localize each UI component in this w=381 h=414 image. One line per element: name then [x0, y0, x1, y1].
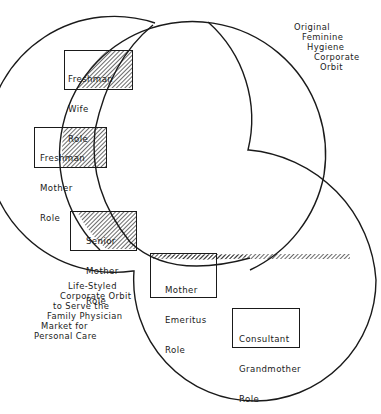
orbit-label-life-styled: Life-Styled Corporate Orbit to Serve the…: [34, 281, 132, 341]
role-label-consultant-grandmother: Consultant Grandmother Role: [239, 314, 301, 414]
role-label-mother-emeritus: Mother Emeritus Role: [165, 265, 207, 365]
orbit-label-feminine-hygiene: Original Feminine Hygiene Corporate Orbi…: [294, 22, 359, 72]
